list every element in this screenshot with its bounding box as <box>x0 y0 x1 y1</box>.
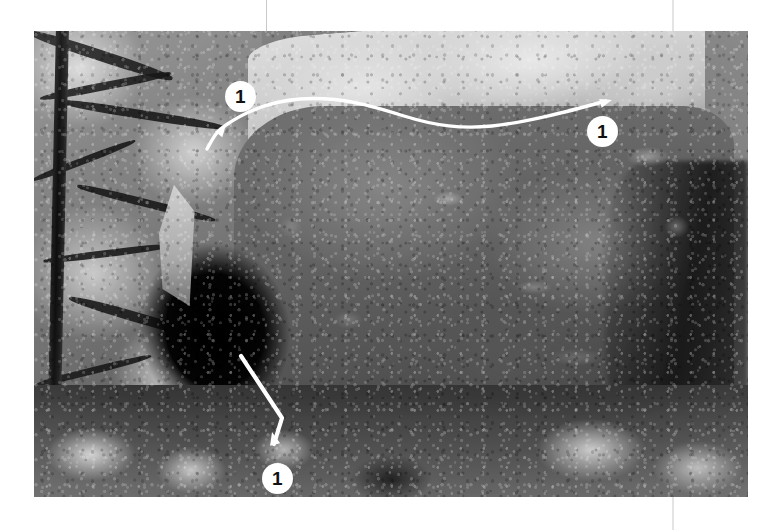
guidebook-page: 1 1 1 <box>0 0 781 530</box>
boulder-topo-photograph <box>34 31 748 497</box>
route-marker-base[interactable]: 1 <box>262 463 293 494</box>
column-rule-right-bottom <box>672 497 674 530</box>
route-marker-start[interactable]: 1 <box>225 81 256 112</box>
route-marker-finish[interactable]: 1 <box>587 116 618 147</box>
rock-speckle-texture <box>34 31 748 497</box>
column-rule-left <box>266 0 267 34</box>
column-rule-right-top <box>672 0 674 31</box>
